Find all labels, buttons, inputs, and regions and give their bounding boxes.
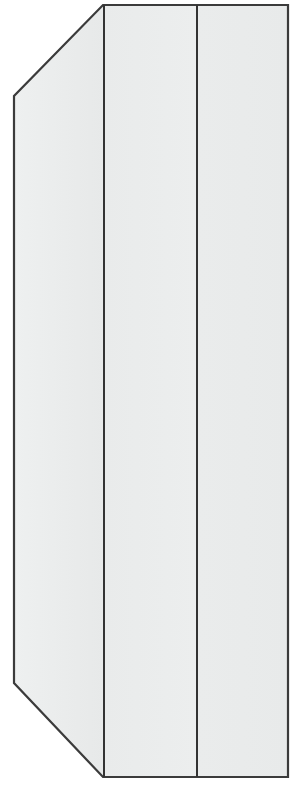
front-door-left bbox=[104, 5, 197, 777]
front-door-right bbox=[197, 5, 288, 777]
line-drawing-svg bbox=[0, 0, 300, 789]
left-side-panel bbox=[14, 5, 103, 777]
drawing-canvas bbox=[0, 0, 300, 789]
